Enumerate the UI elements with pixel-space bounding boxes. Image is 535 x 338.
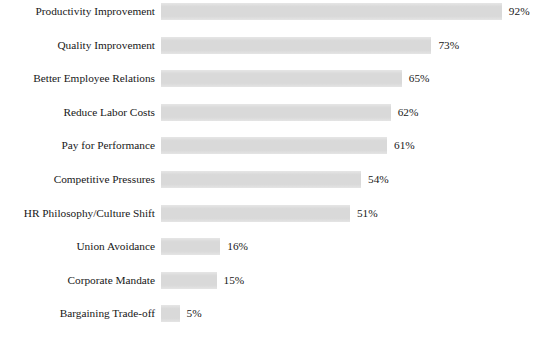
bar-row: Quality Improvement73% <box>0 36 535 54</box>
bar-texture <box>161 3 502 20</box>
bar-row: Union Avoidance16% <box>0 237 535 255</box>
category-label: Competitive Pressures <box>54 170 155 188</box>
bar <box>161 104 391 121</box>
bar-chart: Productivity Improvement92%Quality Impro… <box>0 0 535 338</box>
bar-texture <box>161 137 387 154</box>
category-label: Bargaining Trade-off <box>60 304 155 322</box>
category-label: Quality Improvement <box>57 36 155 54</box>
bar-texture <box>161 305 180 322</box>
category-label: Better Employee Relations <box>33 69 155 87</box>
bar-texture <box>161 171 361 188</box>
bar-row: HR Philosophy/Culture Shift51% <box>0 204 535 222</box>
bar-texture <box>161 238 220 255</box>
bar-row: Better Employee Relations65% <box>0 69 535 87</box>
bar-texture <box>161 272 217 289</box>
bar-value-label: 62% <box>398 103 419 121</box>
bar-row: Reduce Labor Costs62% <box>0 103 535 121</box>
bar-row: Competitive Pressures54% <box>0 170 535 188</box>
bar-value-label: 73% <box>438 36 459 54</box>
bar-value-label: 16% <box>227 237 248 255</box>
bar-value-label: 61% <box>394 136 415 154</box>
bar-texture <box>161 37 431 54</box>
bar-value-label: 51% <box>357 204 378 222</box>
bar-value-label: 54% <box>368 170 389 188</box>
category-label: Reduce Labor Costs <box>63 103 155 121</box>
bar <box>161 137 387 154</box>
bar-texture <box>161 70 402 87</box>
category-label: Corporate Mandate <box>67 271 155 289</box>
bar <box>161 305 180 322</box>
chart-plot-area: Productivity Improvement92%Quality Impro… <box>0 0 535 338</box>
bar <box>161 171 361 188</box>
bar <box>161 238 220 255</box>
bar <box>161 205 350 222</box>
bar-value-label: 5% <box>187 304 202 322</box>
bar <box>161 37 431 54</box>
bar-row: Productivity Improvement92% <box>0 2 535 20</box>
bar-value-label: 15% <box>224 271 245 289</box>
category-label: Productivity Improvement <box>35 2 155 20</box>
bar <box>161 3 502 20</box>
bar-texture <box>161 205 350 222</box>
bar-value-label: 92% <box>509 2 530 20</box>
category-label: Pay for Performance <box>62 136 155 154</box>
bar-row: Bargaining Trade-off5% <box>0 304 535 322</box>
bar <box>161 70 402 87</box>
bar-row: Corporate Mandate15% <box>0 271 535 289</box>
bar-value-label: 65% <box>409 69 430 87</box>
bar-row: Pay for Performance61% <box>0 136 535 154</box>
category-label: Union Avoidance <box>76 237 155 255</box>
bar-texture <box>161 104 391 121</box>
category-label: HR Philosophy/Culture Shift <box>24 204 155 222</box>
bar <box>161 272 217 289</box>
